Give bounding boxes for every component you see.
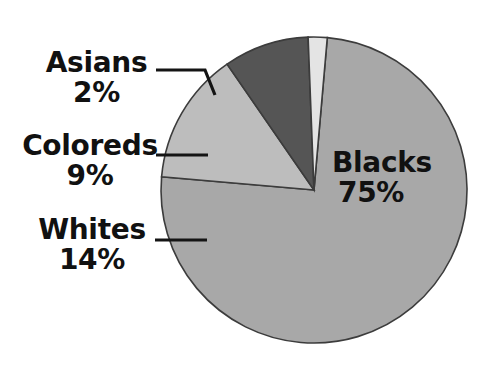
slice-label-coloreds-name: Coloreds <box>6 131 174 160</box>
slice-label-coloreds: Coloreds 9% <box>6 131 174 190</box>
slice-label-asians-name: Asians <box>24 48 169 77</box>
slice-label-blacks-percent: 75% <box>332 178 452 207</box>
pie-chart-figure: Asians 2% Coloreds 9% Whites 14% Blacks … <box>0 0 488 370</box>
slice-label-blacks-name: Blacks <box>332 148 452 177</box>
slice-label-whites: Whites 14% <box>16 215 168 274</box>
slice-label-asians: Asians 2% <box>24 48 169 107</box>
slice-label-whites-name: Whites <box>16 215 168 244</box>
slice-label-whites-percent: 14% <box>16 245 168 274</box>
slice-label-blacks: Blacks 75% <box>332 148 452 207</box>
slice-label-coloreds-percent: 9% <box>6 161 174 190</box>
slice-label-asians-percent: 2% <box>24 78 169 107</box>
